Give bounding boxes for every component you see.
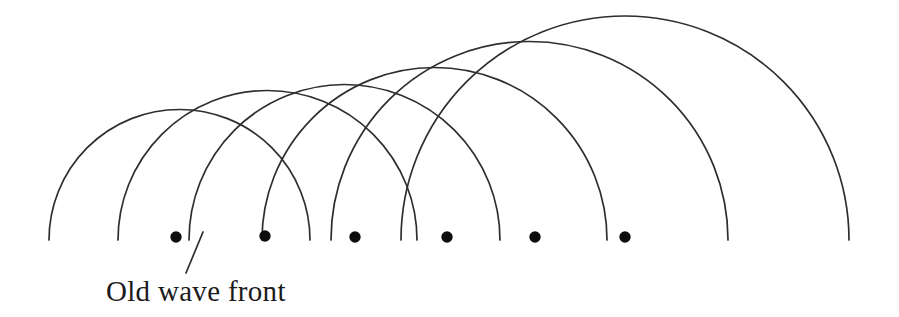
wavelet-canvas	[0, 0, 899, 317]
point-source-dot-6	[619, 231, 630, 242]
point-source-dot-2	[259, 230, 270, 241]
old-wave-front-label: Old wave front	[106, 277, 286, 306]
wavelet-arc-5	[331, 41, 728, 240]
wavelet-arc-4	[262, 68, 607, 241]
wavelet-arc-3	[189, 85, 500, 241]
point-source-dot-4	[441, 231, 452, 242]
point-source-dot-3	[349, 231, 360, 242]
point-source-dot-1	[170, 231, 181, 242]
wavelet-arc-1	[49, 110, 310, 241]
wavelet-arc-6	[401, 16, 849, 240]
point-source-dot-5	[529, 231, 540, 242]
wavelet-arc-2	[118, 91, 417, 241]
huygens-wavefront-figure: Old wave front	[0, 0, 899, 317]
